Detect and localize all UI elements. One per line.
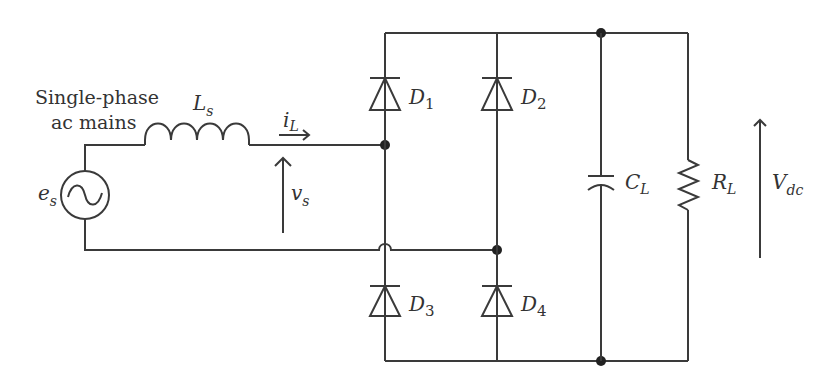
il-label: iL: [283, 108, 299, 134]
vdc-label: Vdc: [772, 170, 803, 198]
cl-label: CL: [625, 170, 650, 197]
vs-arrow-icon: [275, 158, 291, 233]
es-label: es: [38, 181, 57, 209]
circuit-diagram: Single-phase ac mains es Ls iL vs D1 D2 …: [0, 0, 830, 386]
source-label-line1: Single-phase: [35, 86, 159, 108]
vdc-arrow-icon: [754, 120, 766, 258]
source-label-line2: ac mains: [51, 111, 136, 133]
d1-label: D1: [408, 85, 435, 113]
vs-label: vs: [291, 181, 310, 209]
rl-label: RL: [711, 170, 736, 197]
inductor: [145, 124, 249, 146]
d3-label: D3: [408, 292, 435, 320]
capacitor: [588, 33, 614, 361]
ls-label: Ls: [192, 91, 213, 119]
ac-source: [61, 145, 109, 250]
resistor: [679, 33, 698, 361]
d4-label: D4: [520, 292, 547, 320]
d2-label: D2: [520, 85, 547, 113]
wire-source-return: [84, 244, 497, 250]
